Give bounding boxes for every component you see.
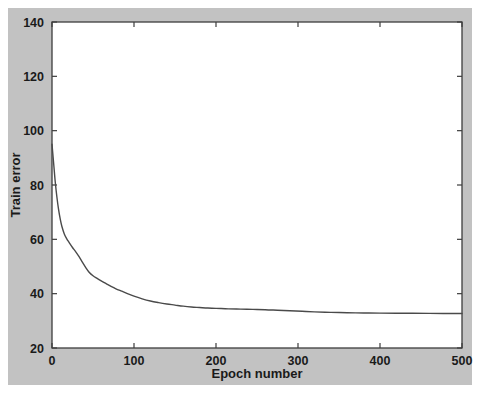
y-tick-label: 80: [30, 179, 44, 193]
y-tick-label: 40: [30, 287, 44, 301]
plot-frame: [52, 22, 462, 348]
train-error-chart: 20406080100120140 0100200300400500 Epoch…: [0, 0, 487, 399]
y-tick-label: 140: [23, 16, 44, 30]
x-tick-label: 0: [49, 354, 56, 368]
x-axis-title: Epoch number: [211, 366, 302, 381]
y-axis-title: Train error: [8, 152, 23, 217]
y-tick-label: 60: [30, 233, 44, 247]
y-tick-labels: 20406080100120140: [23, 16, 44, 356]
x-tick-label: 400: [370, 354, 391, 368]
y-tick-label: 120: [23, 70, 44, 84]
y-tick-label: 100: [23, 124, 44, 138]
x-tick-label: 500: [452, 354, 473, 368]
y-tick-label: 20: [30, 342, 44, 356]
x-tick-label: 100: [124, 354, 145, 368]
